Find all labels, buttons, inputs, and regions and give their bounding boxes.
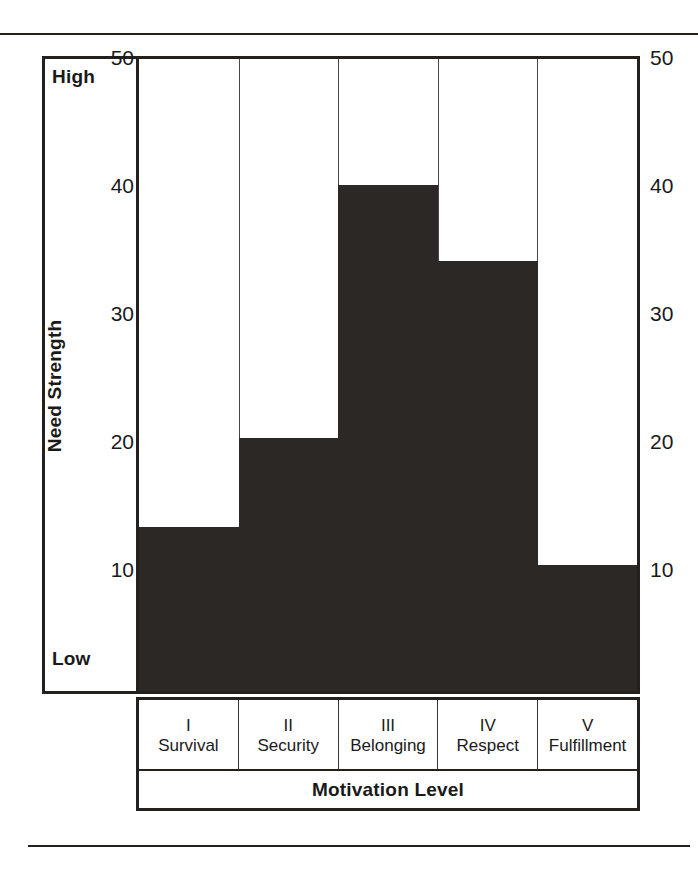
y-tick-label-left-20: 20: [88, 430, 134, 454]
y-axis-title: Need Strength: [44, 286, 66, 486]
bottom-horizontal-rule: [28, 845, 690, 847]
y-tick-label-left-50: 50: [88, 46, 134, 70]
category-row: ISurvivalIISecurityIIIBelongingIVRespect…: [139, 700, 637, 771]
y-tick-label-right-10: 10: [650, 558, 696, 582]
category-roman-numeral: IV: [480, 716, 496, 736]
category-cell-belonging: IIIBelonging: [339, 700, 439, 769]
bar-security: [239, 438, 339, 691]
category-cell-respect: IVRespect: [438, 700, 538, 769]
category-roman-numeral: V: [582, 716, 593, 736]
bar-respect: [438, 261, 538, 691]
x-axis-title-row: Motivation Level: [139, 771, 637, 809]
y-tick-label-left-10: 10: [88, 558, 134, 582]
category-cell-security: IISecurity: [239, 700, 339, 769]
category-name: Belonging: [350, 736, 426, 756]
category-name: Security: [257, 736, 318, 756]
category-axis-table: ISurvivalIISecurityIIIBelongingIVRespect…: [136, 697, 640, 811]
category-name: Survival: [158, 736, 218, 756]
y-tick-label-right-20: 20: [650, 430, 696, 454]
y-axis-low-label: Low: [52, 648, 91, 670]
category-cell-fulfillment: VFulfillment: [538, 700, 637, 769]
category-roman-numeral: II: [283, 716, 292, 736]
bar-survival: [139, 527, 239, 691]
category-roman-numeral: III: [381, 716, 395, 736]
category-cell-survival: ISurvival: [139, 700, 239, 769]
y-tick-label-left-40: 40: [88, 174, 134, 198]
bar-belonging: [338, 185, 438, 691]
y-tick-label-left-30: 30: [88, 302, 134, 326]
plot-area: [136, 56, 640, 694]
y-tick-label-right-50: 50: [650, 46, 696, 70]
x-axis-title: Motivation Level: [312, 779, 464, 801]
category-roman-numeral: I: [186, 716, 191, 736]
top-horizontal-rule: [0, 33, 698, 35]
y-tick-label-right-40: 40: [650, 174, 696, 198]
category-name: Fulfillment: [549, 736, 626, 756]
y-tick-label-right-30: 30: [650, 302, 696, 326]
category-name: Respect: [457, 736, 519, 756]
bar-fulfillment: [537, 565, 637, 691]
